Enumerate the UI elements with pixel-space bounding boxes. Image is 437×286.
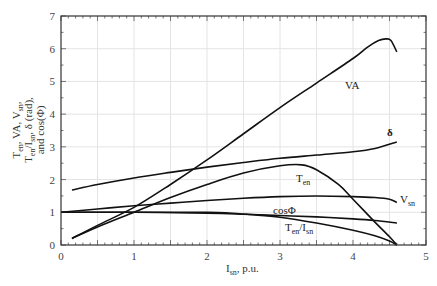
y-tick-label: 3: [50, 141, 56, 153]
x-tick-label: 0: [58, 250, 64, 262]
x-axis-title: Isn, p.u.: [226, 262, 259, 277]
y-tick-label: 5: [50, 75, 56, 87]
y-tick-label: 2: [50, 174, 56, 186]
label-cosphi: cosΦ: [273, 204, 296, 216]
x-tick-label: 5: [423, 250, 429, 262]
label-delta: δ: [387, 126, 393, 138]
label-va: VA: [345, 79, 360, 91]
label-ten-isn: Ten/Isn: [285, 221, 313, 236]
curve-va: [72, 39, 397, 239]
label-vsn: Vsn: [400, 193, 415, 208]
x-tick-label: 3: [277, 250, 283, 262]
y-tick-label: 4: [50, 108, 56, 120]
curve-tenisn: [61, 212, 397, 245]
y-tick-label: 1: [50, 206, 56, 218]
y-axis-title: Ten, VA, Vsn, Ten/Isn, δ (rad), and cos(…: [10, 97, 47, 163]
x-tick-label: 2: [204, 250, 210, 262]
label-ten: Ten: [296, 172, 310, 187]
chart: 01234501234567 VA δ Ten Vsn cosΦ Ten/Isn…: [0, 0, 437, 286]
curve-ten: [72, 165, 397, 245]
y-tick-label: 7: [50, 10, 56, 22]
x-tick-label: 1: [131, 250, 137, 262]
curve-vsn: [61, 196, 397, 212]
y-tick-label: 0: [50, 239, 56, 251]
svg-text:and cos(Φ): and cos(Φ): [34, 105, 47, 154]
data-curves: [61, 39, 397, 245]
curve-: [72, 142, 397, 190]
x-tick-label: 4: [350, 250, 356, 262]
grid-lines: [61, 16, 426, 245]
y-tick-label: 6: [50, 43, 56, 55]
